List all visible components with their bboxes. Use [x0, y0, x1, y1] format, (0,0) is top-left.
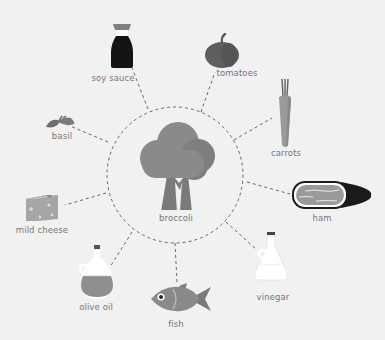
olive-oil-node	[78, 245, 116, 305]
node-label-carrots: carrots	[271, 148, 301, 158]
ham-node	[291, 180, 373, 214]
node-label-mild-cheese: mild cheese	[16, 225, 68, 235]
vinegar-node	[253, 232, 289, 286]
mild-cheese-node	[24, 193, 60, 227]
fish-icon	[149, 283, 213, 315]
olive-oil-bottle-icon	[78, 245, 116, 301]
carrot-icon	[277, 79, 293, 149]
cheese-icon	[24, 193, 60, 223]
fish-node	[149, 283, 213, 319]
basil-icon	[45, 115, 77, 131]
center-label: broccoli	[159, 213, 193, 223]
tomato-icon	[205, 33, 241, 69]
soy-sauce-bottle-icon	[111, 22, 133, 68]
food-pairing-diagram: broccoli soy sauce tomatoes carrots	[0, 0, 385, 340]
soy-sauce-node	[111, 22, 133, 72]
ham-icon	[291, 180, 373, 210]
vinegar-bottle-icon	[253, 232, 289, 282]
node-label-vinegar: vinegar	[257, 292, 290, 302]
node-label-tomatoes: tomatoes	[216, 68, 257, 78]
node-label-olive-oil: olive oil	[79, 302, 113, 312]
node-label-basil: basil	[52, 131, 72, 141]
tomatoes-node	[205, 33, 241, 73]
carrots-node	[277, 79, 293, 153]
node-label-ham: ham	[312, 213, 331, 223]
node-label-fish: fish	[168, 319, 184, 329]
node-label-soy-sauce: soy sauce	[91, 73, 134, 83]
broccoli-icon	[130, 120, 225, 210]
